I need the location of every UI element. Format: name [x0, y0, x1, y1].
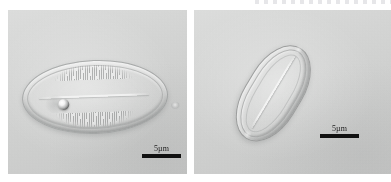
scan-artifact [250, 0, 391, 4]
micrograph-figure: 5µm 5µm [0, 0, 391, 182]
scale-bar-right: 5µm [320, 124, 359, 138]
scale-bar-label: 5µm [320, 124, 359, 133]
scale-bar-rule [142, 154, 181, 158]
scale-bar-label: 5µm [142, 144, 181, 153]
out-of-focus-debris [171, 102, 180, 109]
micrograph-panel-right: 5µm [194, 10, 391, 174]
scale-bar-left: 5µm [142, 144, 181, 158]
micrograph-panel-left: 5µm [8, 10, 187, 174]
scale-bar-rule [320, 134, 359, 138]
elliptical-diatom-valve [21, 58, 167, 135]
